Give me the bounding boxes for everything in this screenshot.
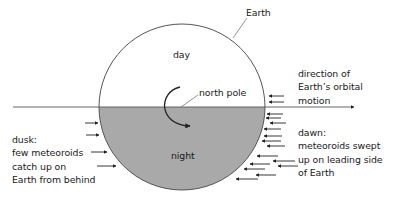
dusk-label: dusk: few meteoroids catch up on Earth f… <box>12 133 95 187</box>
dawn-label: dawn: meteoroids swept up on leading sid… <box>298 126 382 180</box>
day-label: day <box>173 48 190 61</box>
orbital-motion-label: direction of Earth’s orbital motion <box>298 67 363 107</box>
earth-label: Earth <box>246 6 271 19</box>
north-pole-leader-line <box>181 95 198 107</box>
night-label: night <box>171 149 195 162</box>
earth-leader-line <box>233 18 247 38</box>
north-pole-label: north pole <box>199 86 246 99</box>
